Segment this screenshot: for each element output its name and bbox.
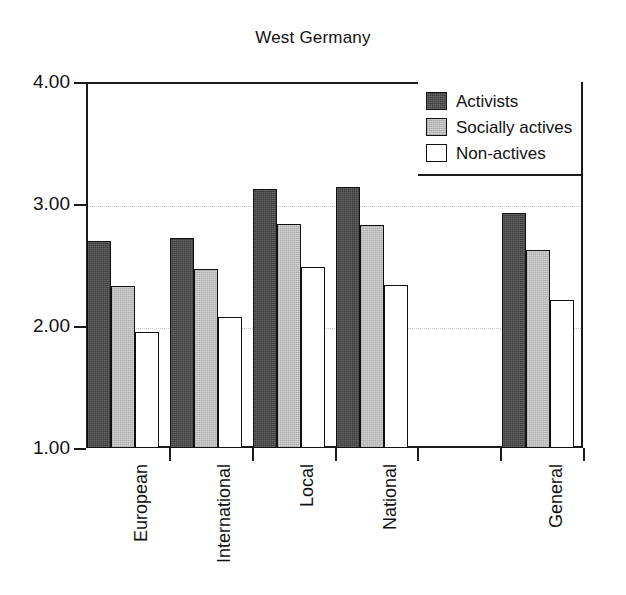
x-tick-mark [583, 448, 585, 461]
bar [87, 241, 111, 448]
x-tick-label: General [547, 464, 565, 528]
x-tick-mark [252, 448, 254, 461]
bar [301, 267, 325, 448]
x-tick-mark [169, 448, 171, 461]
legend-item[interactable]: Non-actives [426, 140, 573, 166]
legend-item[interactable]: Activists [426, 88, 573, 114]
x-tick-mark [417, 448, 419, 461]
x-tick-label: National [381, 464, 399, 530]
legend: Activists Socially actives Non-actives [418, 82, 583, 176]
y-tick-label: 1.00 [4, 438, 70, 457]
x-tick-label: Local [298, 464, 316, 507]
legend-label-non-actives: Non-actives [456, 145, 546, 162]
gridline [88, 206, 581, 207]
bar [360, 225, 384, 448]
y-tick-mark [74, 204, 86, 206]
x-tick-mark [500, 448, 502, 461]
legend-label-activists: Activists [456, 93, 518, 110]
legend-item[interactable]: Socially actives [426, 114, 573, 140]
bar [135, 332, 159, 448]
legend-swatch-activists [426, 92, 447, 110]
bar-chart-figure: West Germany 1.002.003.004.00 EuropeanIn… [0, 0, 626, 595]
bar [336, 187, 360, 448]
x-tick-label: European [132, 464, 150, 542]
bar [550, 300, 574, 448]
chart-title: West Germany [0, 28, 626, 48]
bar [218, 317, 242, 448]
y-tick-label: 2.00 [4, 316, 70, 335]
y-tick-label: 4.00 [4, 72, 70, 91]
legend-label-socially-actives: Socially actives [456, 119, 572, 136]
y-tick-mark [74, 82, 86, 84]
legend-swatch-socially-actives [426, 118, 447, 136]
y-tick-mark [74, 326, 86, 328]
bar [170, 238, 194, 448]
bar [277, 224, 301, 448]
x-tick-label: International [215, 464, 233, 563]
bar [384, 285, 408, 448]
bar [502, 213, 526, 448]
bar [253, 189, 277, 448]
bar [526, 250, 550, 448]
y-tick-label: 3.00 [4, 194, 70, 213]
legend-swatch-non-actives [426, 144, 447, 162]
bar [194, 269, 218, 448]
bar [111, 286, 135, 448]
x-tick-mark [335, 448, 337, 461]
y-tick-mark [74, 448, 86, 450]
